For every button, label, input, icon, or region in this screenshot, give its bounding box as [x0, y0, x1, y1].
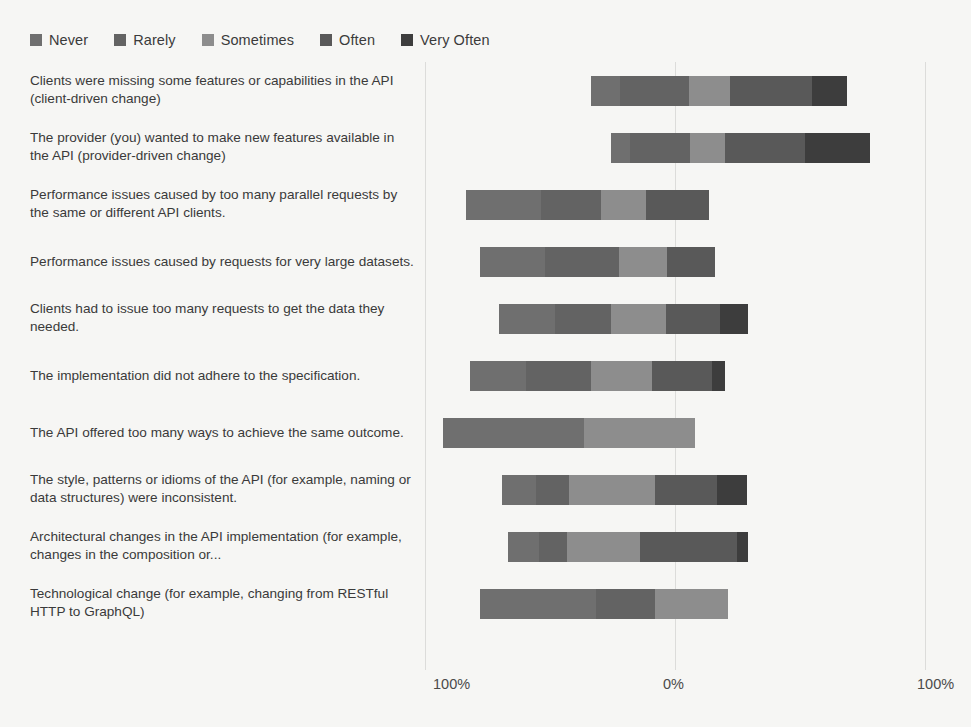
bar-segment-very-often[interactable] — [737, 532, 748, 562]
plot-area: Clients were missing some features or ca… — [0, 62, 971, 674]
stacked-bar[interactable] — [443, 418, 695, 448]
bar-segment-very-often[interactable] — [712, 361, 725, 391]
bar-segment-very-often[interactable] — [720, 304, 748, 334]
legend-swatch-icon — [401, 34, 413, 46]
bar-segment-never[interactable] — [611, 133, 630, 163]
chart-page: NeverRarelySometimesOftenVery Often Clie… — [0, 0, 971, 727]
row-label: The style, patterns or idioms of the API… — [30, 471, 415, 509]
bar-segment-sometimes[interactable] — [655, 589, 728, 619]
bar-segment-often[interactable] — [652, 361, 713, 391]
bar-segment-very-often[interactable] — [805, 133, 870, 163]
row-label: The implementation did not adhere to the… — [30, 366, 415, 385]
stacked-bar[interactable] — [480, 589, 728, 619]
bar-segment-never[interactable] — [466, 190, 541, 220]
stacked-bar[interactable] — [591, 76, 847, 106]
chart-row: The style, patterns or idioms of the API… — [0, 461, 971, 518]
x-axis: 100% 0% 100% — [0, 676, 971, 700]
bar-segment-often[interactable] — [655, 475, 717, 505]
stacked-bar[interactable] — [502, 475, 747, 505]
bar-segment-very-often[interactable] — [717, 475, 747, 505]
bar-segment-never[interactable] — [470, 361, 526, 391]
row-label: The API offered too many ways to achieve… — [30, 423, 415, 442]
row-label: Performance issues caused by too many pa… — [30, 186, 415, 224]
bar-segment-sometimes[interactable] — [690, 133, 725, 163]
stacked-bar[interactable] — [508, 532, 748, 562]
bar-segment-rarely[interactable] — [526, 361, 591, 391]
bar-segment-rarely[interactable] — [630, 133, 691, 163]
legend-item-rarely[interactable]: Rarely — [114, 32, 176, 48]
legend-label: Rarely — [133, 32, 176, 48]
bar-segment-never[interactable] — [443, 418, 584, 448]
bar-segment-often[interactable] — [667, 247, 715, 277]
chart-row: The implementation did not adhere to the… — [0, 347, 971, 404]
row-label: Clients were missing some features or ca… — [30, 72, 415, 110]
bar-segment-often[interactable] — [730, 76, 811, 106]
bar-segment-often[interactable] — [666, 304, 720, 334]
bar-segment-never[interactable] — [502, 475, 536, 505]
legend-label: Sometimes — [221, 32, 294, 48]
bar-segment-very-often[interactable] — [812, 76, 847, 106]
bar-segment-rarely[interactable] — [555, 304, 611, 334]
axis-tick-right: 100% — [917, 676, 954, 692]
bar-segment-never[interactable] — [499, 304, 555, 334]
legend-item-never[interactable]: Never — [30, 32, 88, 48]
bar-segment-rarely[interactable] — [541, 190, 601, 220]
legend-label: Often — [339, 32, 375, 48]
bar-segment-never[interactable] — [591, 76, 620, 106]
row-label: Clients had to issue too many requests t… — [30, 300, 415, 338]
row-label: Architectural changes in the API impleme… — [30, 528, 415, 566]
axis-tick-left: 100% — [433, 676, 470, 692]
chart-row: Performance issues caused by requests fo… — [0, 233, 971, 290]
chart-row: Clients were missing some features or ca… — [0, 62, 971, 119]
row-label: Performance issues caused by requests fo… — [30, 252, 415, 271]
bar-segment-rarely[interactable] — [545, 247, 619, 277]
bar-segment-often[interactable] — [725, 133, 804, 163]
bar-segment-sometimes[interactable] — [619, 247, 667, 277]
chart-row: Architectural changes in the API impleme… — [0, 518, 971, 575]
legend-item-very-often[interactable]: Very Often — [401, 32, 490, 48]
stacked-bar[interactable] — [470, 361, 725, 391]
legend-swatch-icon — [202, 34, 214, 46]
bar-segment-never[interactable] — [480, 247, 545, 277]
chart-row: Clients had to issue too many requests t… — [0, 290, 971, 347]
bar-segment-sometimes[interactable] — [689, 76, 731, 106]
chart-row: Technological change (for example, chang… — [0, 575, 971, 632]
legend-label: Very Often — [420, 32, 490, 48]
bar-segment-never[interactable] — [508, 532, 539, 562]
bar-segment-rarely[interactable] — [620, 76, 689, 106]
legend-label: Never — [49, 32, 88, 48]
bar-segment-often[interactable] — [646, 190, 709, 220]
bar-segment-sometimes[interactable] — [601, 190, 646, 220]
row-label: The provider (you) wanted to make new fe… — [30, 129, 415, 167]
legend-swatch-icon — [114, 34, 126, 46]
stacked-bar[interactable] — [611, 133, 870, 163]
axis-tick-center: 0% — [663, 676, 684, 692]
chart-row: Performance issues caused by too many pa… — [0, 176, 971, 233]
legend-swatch-icon — [320, 34, 332, 46]
stacked-bar[interactable] — [480, 247, 715, 277]
bar-rows: Clients were missing some features or ca… — [0, 62, 971, 632]
legend-swatch-icon — [30, 34, 42, 46]
bar-segment-sometimes[interactable] — [569, 475, 655, 505]
legend-item-sometimes[interactable]: Sometimes — [202, 32, 294, 48]
bar-segment-rarely[interactable] — [536, 475, 568, 505]
bar-segment-never[interactable] — [480, 589, 596, 619]
bar-segment-rarely[interactable] — [596, 589, 654, 619]
stacked-bar[interactable] — [499, 304, 748, 334]
bar-segment-sometimes[interactable] — [591, 361, 652, 391]
stacked-bar[interactable] — [466, 190, 709, 220]
bar-segment-sometimes[interactable] — [584, 418, 695, 448]
bar-segment-rarely[interactable] — [539, 532, 568, 562]
chart-row: The API offered too many ways to achieve… — [0, 404, 971, 461]
chart-row: The provider (you) wanted to make new fe… — [0, 119, 971, 176]
bar-segment-sometimes[interactable] — [567, 532, 640, 562]
legend-item-often[interactable]: Often — [320, 32, 375, 48]
bar-segment-sometimes[interactable] — [611, 304, 665, 334]
row-label: Technological change (for example, chang… — [30, 585, 415, 623]
bar-segment-often[interactable] — [640, 532, 737, 562]
chart-legend: NeverRarelySometimesOftenVery Often — [30, 30, 490, 50]
